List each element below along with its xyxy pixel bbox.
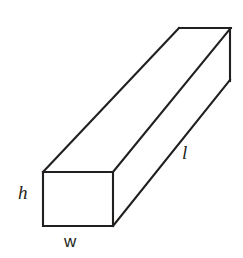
front-face xyxy=(43,172,113,226)
rectangular-prism-drawing xyxy=(0,0,243,258)
dimension-label-height: h xyxy=(18,183,28,202)
figure-container: h w l xyxy=(0,0,243,258)
dimension-label-length: l xyxy=(182,143,187,162)
dimension-label-width: w xyxy=(64,233,76,250)
